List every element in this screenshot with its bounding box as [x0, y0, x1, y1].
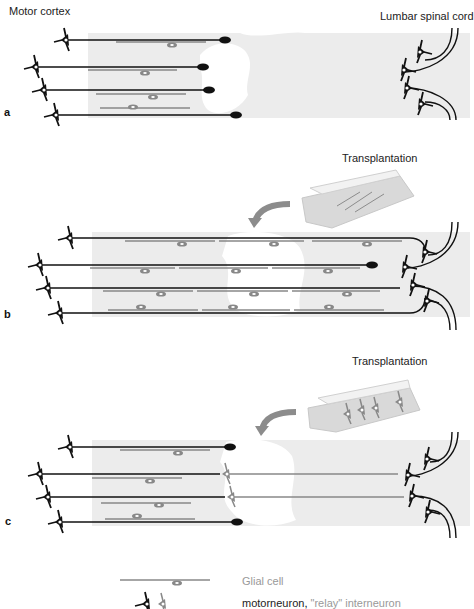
- legend-motorneuron: motorneuron: [242, 597, 304, 609]
- panel-letter-c: c: [5, 515, 11, 527]
- legend-relay-interneuron: "relay" interneuron: [311, 597, 401, 609]
- panel-letter-b: b: [4, 308, 11, 320]
- transplant-dish-c: [308, 380, 420, 432]
- motor-cortex-label: Motor cortex: [9, 5, 70, 17]
- legend-neurons: motorneuron, "relay" interneuron: [242, 597, 401, 609]
- lumbar-spinal-cord-label: Lumbar spinal cord: [380, 10, 474, 22]
- panel-letter-a: a: [4, 106, 10, 118]
- transplantation-label-b: Transplantation: [342, 152, 417, 164]
- panel-a: [24, 28, 470, 126]
- transplantation-label-c: Transplantation: [352, 355, 427, 367]
- legend-glial-cell: Glial cell: [242, 575, 284, 587]
- legend: [120, 580, 210, 609]
- panel-b: [28, 170, 470, 330]
- panel-c: [28, 380, 470, 538]
- transplant-dish-b: [302, 170, 414, 228]
